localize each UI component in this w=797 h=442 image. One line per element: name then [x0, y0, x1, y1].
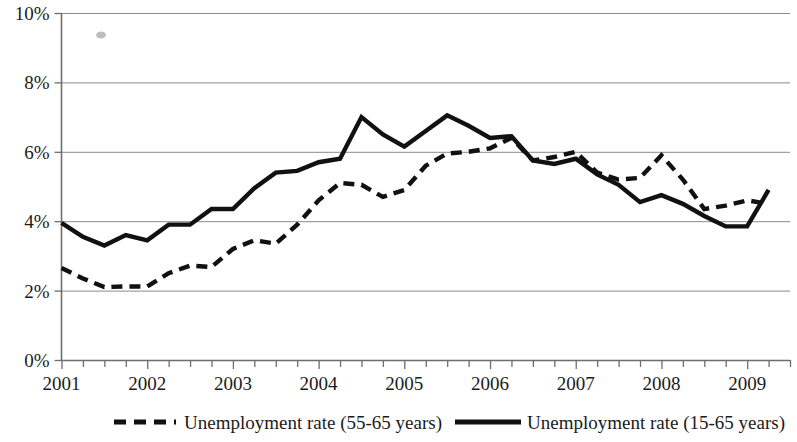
x-tick-label-2003: 2003 [214, 373, 252, 394]
x-tick-label-2008: 2008 [642, 373, 680, 394]
x-tick-label-2004: 2004 [300, 373, 339, 394]
y-tick-label-2pct: 2% [24, 281, 50, 302]
legend-label-55-65: Unemployment rate (55-65 years) [184, 412, 442, 434]
legend-label-15-65: Unemployment rate (15-65 years) [527, 412, 785, 434]
y-axis-tick-labels: 0%2%4%6%8%10% [15, 3, 50, 371]
x-tick-label-2007: 2007 [557, 373, 595, 394]
y-tick-label-0pct: 0% [24, 350, 50, 371]
y-tick-label-4pct: 4% [24, 211, 50, 232]
y-tick-label-10pct: 10% [15, 3, 50, 24]
x-axis-tick-labels: 200120022003200420052006200720082009 [43, 373, 767, 394]
unemployment-rate-line-chart: 0%2%4%6%8%10% 20012002200320042005200620… [0, 0, 797, 442]
x-tick-label-2005: 2005 [385, 373, 423, 394]
scan-artifact-speck [96, 32, 106, 39]
x-tick-label-2006: 2006 [471, 373, 509, 394]
gridlines [62, 14, 791, 292]
x-tick-label-2001: 2001 [43, 373, 81, 394]
x-tick-label-2002: 2002 [128, 373, 166, 394]
chart-legend: Unemployment rate (55-65 years) Unemploy… [114, 412, 785, 434]
y-tick-label-8pct: 8% [24, 72, 50, 93]
x-tick-label-2009: 2009 [728, 373, 766, 394]
y-axis-tick-marks [55, 14, 62, 361]
chart-canvas: 0%2%4%6%8%10% 20012002200320042005200620… [0, 0, 797, 442]
y-tick-label-6pct: 6% [24, 142, 50, 163]
x-axis-tick-marks [62, 360, 791, 369]
series-line-unemployment-55-65 [62, 138, 769, 287]
